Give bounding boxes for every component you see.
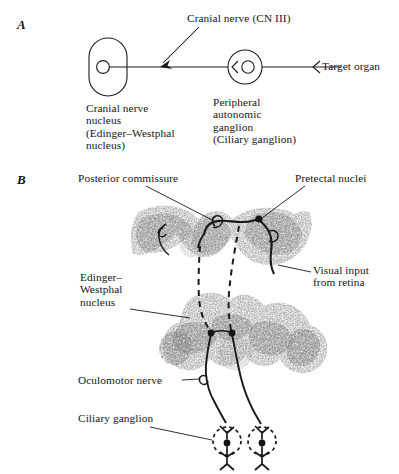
ciliary-neuron-left [220,426,234,470]
label-pretectal-nuclei: Pretectal nuclei [295,172,367,184]
panel-b-diagram [0,0,399,474]
lower-brainstem-section [159,293,327,373]
leader-visual-input [278,265,311,272]
figure-root: A Cranial nerve (CN III) Cranial nerve n… [0,0,399,474]
ciliary-neuron-right [255,426,269,470]
leader-ciliary-ganglion [150,427,212,440]
leader-edinger-westphal [130,309,190,318]
label-posterior-commissure: Posterior commissure [78,172,178,184]
leader-oculomotor-nerve [182,379,199,380]
label-ciliary-ganglion: Ciliary ganglion [78,412,153,424]
label-visual-input: Visual input from retina [313,264,369,289]
label-oculomotor-nerve: Oculomotor nerve [78,374,162,386]
label-edinger-westphal-nucleus: Edinger– Westphal nucleus [80,271,123,308]
